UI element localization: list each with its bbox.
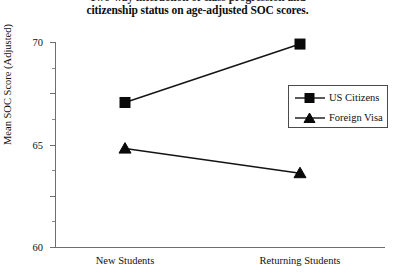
chart-figure: Two-way interaction of class progression… bbox=[0, 0, 395, 280]
data-point-marker bbox=[295, 39, 305, 49]
y-tick-label: 70 bbox=[33, 37, 44, 48]
y-tick-label: 60 bbox=[33, 242, 44, 253]
legend-item-foreign-visa: Foreign Visa bbox=[289, 107, 387, 128]
y-axis-title: Mean SOC Score (Adjusted) bbox=[2, 24, 13, 145]
legend-key-triangle-icon bbox=[294, 111, 326, 125]
legend-item-us-citizens: US Citizens bbox=[289, 87, 387, 108]
data-point-marker bbox=[120, 97, 130, 107]
figure-title: Two-way interaction of class progression… bbox=[0, 0, 395, 17]
legend-key-square-icon bbox=[294, 91, 326, 105]
legend-label-us-citizens: US Citizens bbox=[329, 92, 379, 103]
series-layer bbox=[55, 42, 385, 248]
x-tick-label: Returning Students bbox=[260, 255, 341, 266]
legend: US Citizens Foreign Visa bbox=[288, 85, 388, 128]
plot-area: 5055606570 New StudentsReturning Student… bbox=[55, 42, 385, 247]
figure-title-line-2: citizenship status on age-adjusted SOC s… bbox=[0, 4, 395, 17]
y-tick-label: 65 bbox=[33, 139, 44, 150]
data-point-marker bbox=[119, 143, 131, 154]
legend-label-foreign-visa: Foreign Visa bbox=[329, 112, 383, 123]
series-line-us-citizens bbox=[125, 44, 300, 102]
x-tick-label: New Students bbox=[96, 255, 155, 266]
series-line-foreign-visa bbox=[125, 149, 300, 174]
